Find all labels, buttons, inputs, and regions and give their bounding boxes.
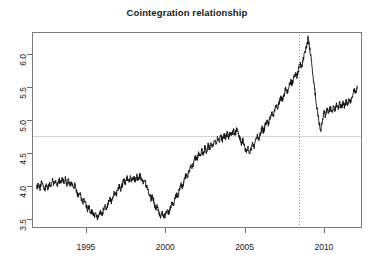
y-tick-label: 4.0 <box>18 186 28 198</box>
x-tick-label: 2010 <box>314 242 333 252</box>
x-tick-label: 1995 <box>76 242 95 252</box>
x-tick-label: 2005 <box>235 242 254 252</box>
chart-figure: Cointegration relationship 3.54.04.55.05… <box>0 0 374 258</box>
chart-title: Cointegration relationship <box>0 7 374 18</box>
y-tick-label: 4.5 <box>18 153 28 165</box>
plot-area: 3.54.04.55.05.56.0 <box>32 32 362 228</box>
y-tick-label: 5.0 <box>18 120 28 132</box>
plot-border <box>32 32 362 228</box>
y-tick-label: 3.5 <box>18 219 28 231</box>
x-axis-labels: 1995200020052010 <box>32 233 362 247</box>
y-tick-label: 6.0 <box>18 54 28 66</box>
y-tick-label: 5.5 <box>18 87 28 99</box>
x-tick-label: 2000 <box>156 242 175 252</box>
